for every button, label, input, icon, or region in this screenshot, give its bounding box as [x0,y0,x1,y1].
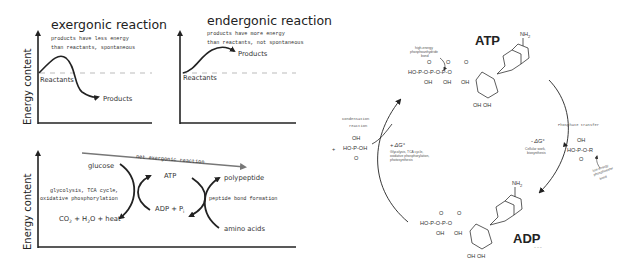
glucose-label: glucose [88,162,114,170]
atp-adp-cycle: ATP high-energy phosphoanhydride bond HO… [332,31,614,259]
phosphate-join-line [372,124,392,144]
ribose-oh: OH OH [467,253,485,259]
peptide-synthesis-arrow [205,178,219,228]
ribose-oh: OH OH [473,102,491,108]
atp-molecule: ATP high-energy phosphoanhydride bond HO… [408,31,531,108]
phosphoester-o: O [579,156,584,162]
atp-oh3: OH [461,79,469,85]
phosphate-o: O [354,155,359,161]
atp-oh2: OH [443,79,451,85]
exergonic-desc-1: products have less energy [51,36,129,42]
reactants-label: Reactants [183,74,217,82]
adp-pi-label: ADP + Pi [155,205,184,214]
high-energy-bond-3: bond [421,54,429,58]
phosphoester-oh: OH [577,137,585,143]
adp-oh2: OH [454,230,462,236]
phosphate-chain: HO-P-OH [343,145,367,151]
atp-chain-text: HO-P-O-P-O-P-O [408,69,452,75]
co2-h2o-heat-label: CO2 + H2O + heat [59,215,121,224]
atp-oh1: OH [424,79,432,85]
atp-label: ATP [164,172,176,180]
peptide-bond-label: peptide bond formation [209,196,278,202]
ribose-ring [470,224,492,249]
catabolism-arrow [120,164,134,218]
amino-acids-label: amino acids [224,225,265,233]
endergonic-title: endergonic reaction [207,13,332,28]
atp-o3: O [464,59,469,65]
bioenergetics-figure: Energy content exergonic reaction produc… [0,0,637,261]
process1-line1: glycolysis, TCA cycle, [50,188,119,194]
adp-o1: O [439,210,444,216]
plus-sign: + [332,146,335,152]
atp-o1: O [427,59,432,65]
condensation-label-2: reaction [349,124,367,128]
minus-dg-desc-2: biosynthesis [527,151,546,155]
net-exergonic-label: net exergonic reaction [136,154,205,165]
endergonic-desc-1: products have more energy [207,31,285,37]
endergonic-curve [183,47,234,73]
ribose-ring [476,72,498,98]
hydrolysis-arrow [540,80,568,192]
adenine-ring [490,195,522,225]
atp-hydrolysis-arrow [190,178,205,216]
credit-mark: ~ ~ ~ [534,246,542,250]
polypeptide-label: polypeptide [224,174,264,182]
minus-dg-label: - ΔG° [531,138,545,144]
adp-chain-text: HO-P-O-P-O [420,220,453,226]
plus-dg-desc-3: photosynthesis [390,158,413,162]
process1-line2: oxidative phosphorylation [40,196,118,202]
phosphate-oh: OH [352,135,360,141]
atp-synthesis-arrow [138,176,150,210]
exergonic-title: exergonic reaction [51,17,167,32]
phosphoester-chain: HO-P-O-R [567,147,593,153]
atp-nh2: NH2 [520,31,531,39]
endergonic-desc-2: than reactants, not spontaneous [207,40,304,46]
adp-nh2: NH2 [512,180,523,188]
exergonic-desc-2: than reactants, spontaneous [51,45,135,51]
condensation-label-1: Condensation [342,117,369,121]
adp-o2: O [457,210,462,216]
plus-dg-label: + ΔG° [390,142,406,148]
adenine-ring [497,44,529,74]
adp-oh1: OH [436,230,444,236]
exergonic-panel: Energy content exergonic reaction produc… [22,17,167,125]
y-axis-label: Energy content [22,173,33,250]
coupled-reaction-panel: Energy content net exergonic reaction gl… [22,152,296,250]
products-label: Products [103,95,133,103]
phosphate-transfer-label: Phosphate transfer [558,123,599,127]
adp-title: ADP [513,231,541,246]
atp-title: ATP [475,33,500,48]
atp-o2: O [446,59,451,65]
products-label: Products [238,50,268,58]
reactants-label: Reactants [40,76,74,84]
adp-molecule: HO-P-O-P-O O O OH OH OH OH NH2 ADP ~ ~ ~ [420,180,542,259]
low-energy-bond-3: bond [599,175,608,181]
y-axis-label: Energy content [22,48,33,125]
endergonic-panel: endergonic reaction products have more e… [180,13,332,124]
